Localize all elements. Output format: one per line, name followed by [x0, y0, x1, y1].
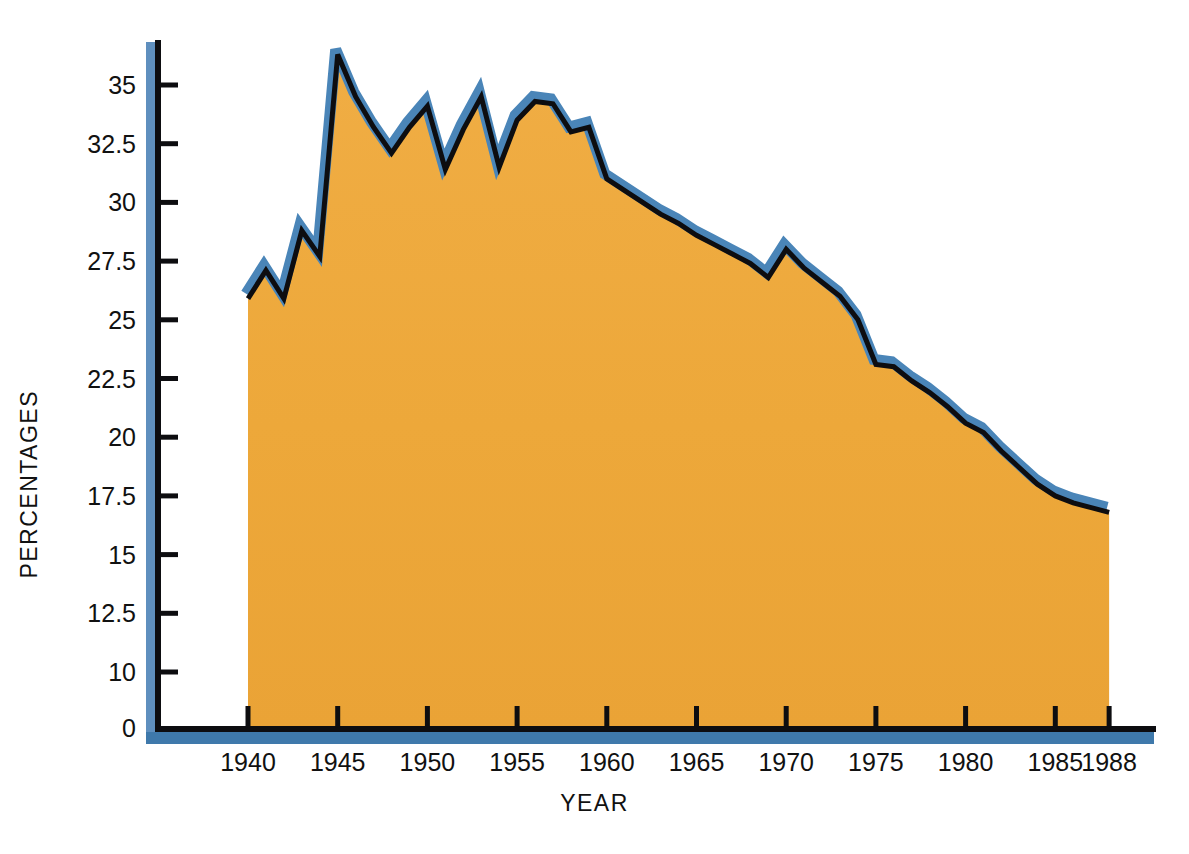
x-tick-label: 1955 [489, 748, 545, 777]
data-area [248, 54, 1109, 728]
x-tick-label: 1940 [220, 748, 276, 777]
x-tick-label: 1960 [579, 748, 635, 777]
y-tick-label: 25 [0, 305, 136, 334]
x-tick-label: 1980 [938, 748, 994, 777]
y-tick-label: 10 [0, 658, 136, 687]
x-tick-label: 1965 [669, 748, 725, 777]
chart-figure: 01012.51517.52022.52527.53032.535 194019… [0, 0, 1189, 854]
x-tick-label: 1945 [310, 748, 366, 777]
y-tick-label: 12.5 [0, 599, 136, 628]
x-tick-label: 1970 [758, 748, 814, 777]
y-tick-label: 0 [0, 714, 136, 743]
x-tick-label: 1988 [1081, 748, 1137, 777]
y-tick-label: 27.5 [0, 247, 136, 276]
y-tick-label: 30 [0, 188, 136, 217]
x-axis-title: YEAR [0, 790, 1189, 817]
y-tick-label: 32.5 [0, 129, 136, 158]
x-tick-label: 1950 [400, 748, 456, 777]
y-axis-title: PERCENTAGES [16, 390, 43, 579]
x-tick-label: 1975 [848, 748, 904, 777]
y-tick-label: 35 [0, 71, 136, 100]
x-tick-label: 1985 [1027, 748, 1083, 777]
y-tick-label: 22.5 [0, 364, 136, 393]
area-chart-plot [0, 0, 1189, 854]
